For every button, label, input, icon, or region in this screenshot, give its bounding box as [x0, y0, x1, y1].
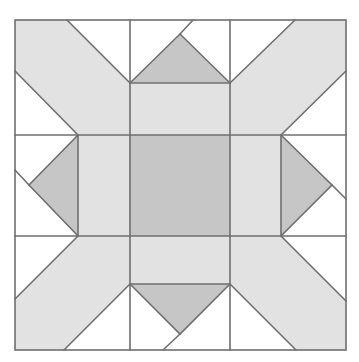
left-inner-rect [78, 135, 130, 236]
center-square [130, 135, 230, 236]
bottom-inner-rect [130, 236, 230, 284]
top-inner-rect [130, 83, 230, 135]
right-inner-rect [230, 135, 281, 236]
quilt-block-diagram [0, 0, 359, 362]
